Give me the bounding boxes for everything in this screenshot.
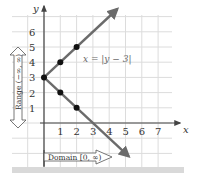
x-tick-label: 1 [57, 126, 63, 137]
x-tick-label: 2 [74, 126, 80, 137]
x-axis-label: x [183, 124, 189, 135]
data-point [57, 59, 63, 65]
y-tick-label: 5 [29, 42, 35, 53]
domain-arrow: Domain [0, ∞) [44, 150, 112, 166]
bottom-band [12, 167, 184, 173]
y-tick-label: 6 [29, 27, 35, 38]
data-point [74, 105, 80, 111]
range-label: Range (−∞, ∞) [14, 54, 23, 110]
data-point [41, 74, 47, 80]
range-arrow: Range (−∞, ∞) [10, 47, 26, 128]
x-tick-label: 7 [155, 126, 161, 137]
chart-canvas: 1234567123456 x = |y − 3| Range (−∞, ∞) … [0, 0, 198, 183]
y-axis-label: y [32, 3, 39, 14]
domain-label: Domain [0, ∞) [48, 153, 101, 162]
data-point [57, 90, 63, 96]
x-tick-label: 3 [90, 126, 96, 137]
y-tick-label: 2 [29, 88, 35, 99]
x-tick-label: 5 [123, 126, 129, 137]
curve-label: x = |y − 3| [83, 54, 131, 65]
y-tick-label: 3 [29, 72, 35, 83]
y-tick-label: 4 [29, 57, 35, 68]
x-tick-label: 6 [139, 126, 145, 137]
grid-lines [12, 15, 172, 170]
y-tick-label: 1 [29, 103, 35, 114]
data-point [74, 44, 80, 50]
axes [40, 6, 180, 170]
